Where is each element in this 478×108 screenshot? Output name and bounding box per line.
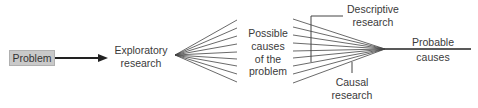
possible-label-line4: problem bbox=[243, 65, 293, 78]
descriptive-bracket bbox=[311, 16, 343, 62]
causal-label-line1: Causal bbox=[322, 76, 382, 89]
exploratory-label-line2: research bbox=[110, 57, 172, 70]
descriptive-research-node: Descriptive research bbox=[340, 3, 406, 28]
problem-label: Problem bbox=[12, 52, 51, 64]
exploratory-label-line1: Exploratory bbox=[110, 44, 172, 57]
causal-research-node: Causal research bbox=[322, 76, 382, 101]
probable-causes-node: Probable causes bbox=[403, 36, 463, 63]
descriptive-label-line1: Descriptive bbox=[340, 3, 406, 16]
possible-label-line3: of the bbox=[243, 53, 293, 66]
problem-arrow bbox=[55, 54, 108, 62]
possible-label-line1: Possible bbox=[243, 27, 293, 40]
causal-label-line2: research bbox=[322, 89, 382, 102]
descriptive-label-line2: research bbox=[340, 16, 406, 29]
probable-fan-lines bbox=[293, 19, 385, 83]
problem-node: Problem bbox=[9, 50, 55, 66]
possible-causes-node: Possible causes of the problem bbox=[243, 27, 293, 78]
probable-label-line2: causes bbox=[403, 51, 463, 64]
probable-label-line1: Probable bbox=[403, 36, 463, 49]
exploratory-fan-lines bbox=[175, 20, 237, 82]
possible-label-line2: causes bbox=[243, 40, 293, 53]
exploratory-research-node: Exploratory research bbox=[110, 44, 172, 69]
